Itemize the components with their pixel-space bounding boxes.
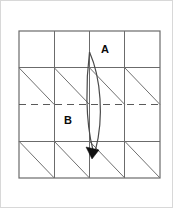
- label-a: A: [101, 43, 109, 55]
- figure-root: A B: [0, 0, 173, 208]
- label-b: B: [64, 114, 72, 126]
- fold-diagram-svg: A B: [0, 0, 173, 208]
